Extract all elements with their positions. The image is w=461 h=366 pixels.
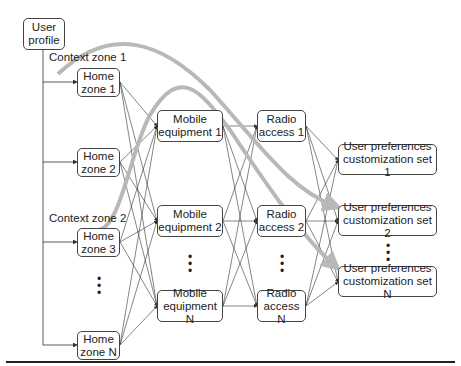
- home-zone-n-node: Home zone N: [77, 331, 120, 360]
- context-zone-1-label: Context zone 1: [49, 51, 126, 63]
- radio-access-n-node: Radio access N: [257, 290, 306, 322]
- radio-access-1-node: Radio access 1: [257, 110, 306, 142]
- radio-access-2-node: Radio access 2: [257, 205, 306, 237]
- user-preferences-2-node: User preferences customization set 2: [338, 205, 437, 236]
- user-preferences-ellipsis: • • •: [384, 243, 392, 264]
- user-preferences-n-node: User preferences customization set N: [338, 266, 437, 297]
- home-zone-3-node: Home zone 3: [77, 228, 120, 257]
- context-zone-2-label: Context zone 2: [49, 212, 126, 224]
- home-zone-2-node: Home zone 2: [77, 148, 120, 177]
- mobile-equipment-1-node: Mobile equipment 1: [157, 110, 223, 142]
- mobile-equipment-ellipsis: • • •: [186, 254, 194, 275]
- user-preferences-1-node: User preferences customization set 1: [338, 144, 437, 175]
- mobile-equipment-n-node: Mobile equipment N: [157, 290, 223, 322]
- radio-access-ellipsis: • • •: [278, 254, 286, 275]
- user-profile-node: User profile: [23, 18, 65, 50]
- home-zone-ellipsis: • • •: [95, 276, 103, 297]
- bottom-rule: [6, 361, 455, 363]
- mobile-equipment-2-node: Mobile equipment 2: [157, 205, 223, 237]
- home-zone-1-node: Home zone 1: [77, 68, 120, 97]
